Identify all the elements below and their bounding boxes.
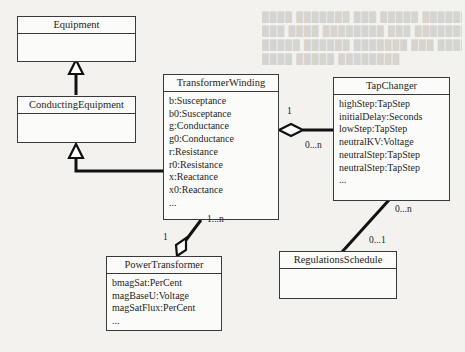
attribute: ... xyxy=(112,315,221,328)
class-equipment[interactable]: Equipment xyxy=(17,16,136,62)
multiplicity-label: 0...1 xyxy=(369,235,386,245)
attribute-list: highStep:TapStep initialDelay:Seconds lo… xyxy=(334,95,449,187)
class-name: TapChanger xyxy=(334,78,449,95)
class-power-transformer[interactable]: PowerTransformer bmagSat:PerCent magBase… xyxy=(106,256,222,331)
attribute: initialDelay:Seconds xyxy=(339,111,449,124)
attribute: neutralKV:Voltage xyxy=(339,136,449,149)
attribute-list: b:Susceptance b0:Susceptance g:Conductan… xyxy=(164,92,278,209)
attribute: b:Susceptance xyxy=(169,95,278,108)
generalization-arrow-icon xyxy=(69,144,83,158)
multiplicity-label: 0...n xyxy=(395,204,412,214)
attribute-list: bmagSat:PerCent magBaseU:Voltage magSatF… xyxy=(107,274,221,328)
aggregation-diamond-icon xyxy=(279,124,303,136)
class-name: PowerTransformer xyxy=(107,257,221,274)
class-regulations-schedule[interactable]: RegulationsSchedule xyxy=(279,251,397,299)
multiplicity-label: 1 xyxy=(163,232,168,242)
attribute: neutralStep:TapStep xyxy=(339,162,449,175)
multiplicity-label: 1...n xyxy=(207,214,224,224)
attribute: lowStep:TapStep xyxy=(339,123,449,136)
class-name: RegulationsSchedule xyxy=(280,252,396,269)
attribute: ... xyxy=(169,197,278,210)
attribute: x:Reactance xyxy=(169,171,278,184)
aggregation-diamond-icon xyxy=(176,238,186,256)
attribute: ... xyxy=(339,174,449,187)
attribute: g0:Conductance xyxy=(169,133,278,146)
class-name: TransformerWinding xyxy=(164,75,278,92)
multiplicity-label: 1 xyxy=(287,106,292,116)
attribute: magBaseU:Voltage xyxy=(112,290,221,303)
multiplicity-label: 0...n xyxy=(305,140,322,150)
generalization-arrow-icon xyxy=(69,60,83,74)
attribute: neutralStep:TapStep xyxy=(339,149,449,162)
class-tap-changer[interactable]: TapChanger highStep:TapStep initialDelay… xyxy=(333,77,450,201)
attribute: r0:Resistance xyxy=(169,159,278,172)
attribute: g:Conductance xyxy=(169,120,278,133)
attribute: highStep:TapStep xyxy=(339,98,449,111)
class-conducting-equipment[interactable]: ConductingEquipment xyxy=(17,96,136,143)
attribute: b0:Susceptance xyxy=(169,108,278,121)
class-name: Equipment xyxy=(18,17,135,34)
class-transformer-winding[interactable]: TransformerWinding b:Susceptance b0:Susc… xyxy=(163,74,279,220)
attribute: x0:Reactance xyxy=(169,184,278,197)
attribute: bmagSat:PerCent xyxy=(112,277,221,290)
class-name: ConductingEquipment xyxy=(18,97,135,114)
attribute: r:Resistance xyxy=(169,146,278,159)
attribute: magSatFlux:PerCent xyxy=(112,302,221,315)
